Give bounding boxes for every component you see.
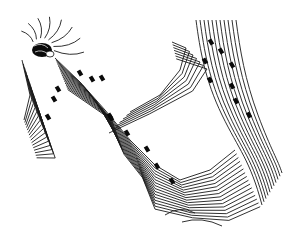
contour-line — [22, 58, 235, 180]
contour-map — [0, 0, 287, 246]
marker-icon — [77, 69, 83, 76]
contour-line — [45, 17, 50, 38]
contour-line — [30, 73, 247, 198]
contour-line — [54, 51, 84, 55]
contour-line — [21, 31, 33, 42]
marker-icon — [229, 61, 235, 68]
contour-line — [196, 20, 262, 205]
marker-icon — [218, 47, 224, 54]
contour-line — [28, 69, 243, 193]
marker-icon — [99, 74, 105, 81]
contour-line — [182, 220, 222, 226]
contour-line — [236, 20, 282, 173]
summit-cluster — [32, 43, 54, 57]
contour-line — [28, 23, 36, 39]
contour-line — [38, 18, 42, 38]
marker-icon — [246, 111, 252, 118]
marker-icon — [45, 113, 51, 120]
contour-line — [26, 64, 240, 187]
marker-icon — [154, 162, 160, 169]
marker-icon — [89, 75, 95, 82]
contour-line — [32, 79, 251, 205]
contour-line — [53, 38, 80, 46]
contour-lines — [21, 17, 282, 226]
marker-icon — [55, 85, 61, 92]
marker-icon — [208, 38, 214, 45]
contour-line — [31, 75, 249, 200]
marker-icon — [51, 95, 57, 102]
contour-line — [25, 62, 239, 185]
marker-icon — [144, 145, 150, 152]
markers — [45, 38, 252, 184]
